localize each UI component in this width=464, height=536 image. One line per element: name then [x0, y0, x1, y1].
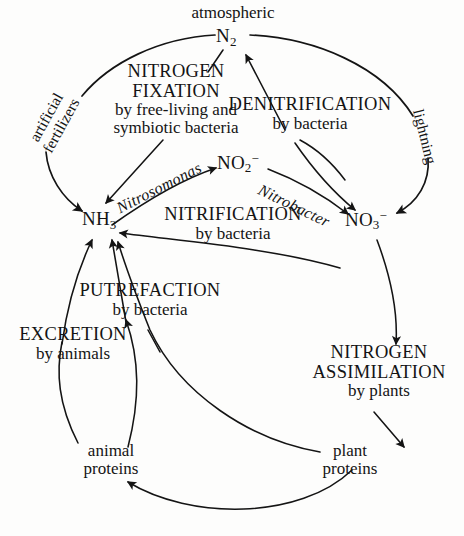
animal-proteins-line1: animal: [58, 442, 164, 460]
process-excretion: EXCRETION by animals: [6, 325, 140, 363]
nitrogen-fixation-line1: NITROGEN: [78, 62, 274, 82]
nitrification-line2: by bacteria: [140, 225, 326, 243]
putrefaction-line2: by bacteria: [62, 301, 238, 319]
pool-nh3-formula: NH: [82, 208, 110, 229]
denitrification-line2: by bacteria: [212, 115, 408, 133]
pool-plant-proteins: plant proteins: [300, 442, 400, 478]
pool-no3-superscript: −: [380, 208, 388, 223]
pool-no2-superscript: −: [252, 151, 260, 166]
nitrogen-assimilation-line1: NITROGEN: [296, 343, 462, 363]
process-putrefaction: PUTREFACTION by bacteria: [62, 281, 238, 319]
pool-no3-subscript: 3: [373, 217, 380, 232]
plant-proteins-line1: plant: [300, 442, 400, 460]
nitrogen-cycle-diagram: atmospheric N2 NH3 NO2− NO3− NITROGEN FI…: [0, 0, 464, 536]
pool-no2: NO2−: [217, 152, 259, 175]
arrow-no3-to-assimilation: [377, 240, 396, 344]
pool-n2-subscript: 2: [230, 34, 237, 49]
line-putrefaction-tick: [148, 330, 160, 352]
process-nitrogen-assimilation: NITROGEN ASSIMILATION by plants: [296, 343, 462, 400]
pool-no3-formula: NO: [345, 209, 373, 230]
pool-no2-formula: NO: [217, 152, 245, 173]
plant-proteins-line2: proteins: [300, 460, 400, 478]
pool-no3: NO3−: [345, 209, 387, 232]
excretion-line1: EXCRETION: [6, 325, 140, 345]
atmospheric-label: atmospheric: [178, 4, 288, 22]
excretion-line2: by animals: [6, 345, 140, 363]
process-denitrification: DENITRIFICATION by bacteria: [212, 95, 408, 133]
arrow-artificial-fertilizers-lower: [46, 152, 82, 211]
putrefaction-line1: PUTREFACTION: [62, 281, 238, 301]
nitrogen-assimilation-line3: by plants: [296, 382, 462, 400]
pool-n2-formula: N: [216, 25, 230, 46]
arrow-plant-proteins-to-nh3: [118, 242, 320, 452]
pool-n2: N2: [216, 26, 237, 48]
arrow-lightning-lower: [397, 158, 428, 213]
pool-nh3: NH3: [82, 209, 117, 231]
denitrification-line1: DENITRIFICATION: [212, 95, 408, 115]
animal-proteins-line2: proteins: [58, 460, 164, 478]
pool-no2-subscript: 2: [245, 160, 252, 175]
nitrogen-assimilation-line2: ASSIMILATION: [296, 363, 462, 383]
pool-nh3-subscript: 3: [110, 217, 117, 232]
pool-animal-proteins: animal proteins: [58, 442, 164, 478]
